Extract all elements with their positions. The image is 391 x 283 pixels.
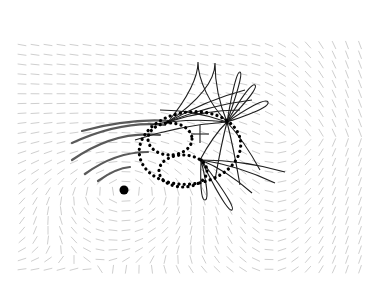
field-dash xyxy=(319,110,323,117)
field-dash xyxy=(319,100,323,107)
field-dash xyxy=(279,130,285,135)
field-dash xyxy=(359,236,362,244)
field-dash xyxy=(200,73,208,75)
field-dash xyxy=(332,129,335,136)
field-dash xyxy=(305,218,310,224)
field-dash xyxy=(319,61,323,68)
field-dash xyxy=(292,199,299,203)
field-dash xyxy=(332,80,335,87)
field-dash xyxy=(319,159,323,166)
field-dash xyxy=(346,168,349,176)
field-dash xyxy=(86,197,89,205)
field-dash xyxy=(44,64,52,65)
field-dash xyxy=(305,227,310,233)
field-dash xyxy=(319,217,323,224)
field-dash xyxy=(359,41,362,48)
field-dash xyxy=(32,170,39,174)
field-dash xyxy=(305,62,310,68)
field-dash xyxy=(109,54,117,55)
field-dash xyxy=(202,188,206,195)
field-dash xyxy=(122,74,130,75)
field-dash xyxy=(359,61,362,68)
field-dash xyxy=(57,151,65,154)
field-dash xyxy=(319,129,323,136)
field-dash xyxy=(213,44,221,45)
field-dash xyxy=(31,160,38,163)
field-dash xyxy=(346,256,349,264)
field-dash xyxy=(174,74,182,76)
field-dash xyxy=(278,268,286,271)
field-dash xyxy=(306,120,311,126)
vector-field-dashes xyxy=(18,41,361,273)
field-dash xyxy=(152,187,153,195)
field-dash xyxy=(31,132,39,134)
field-dash xyxy=(70,123,78,124)
field-dash xyxy=(83,132,91,133)
field-dash xyxy=(44,113,52,114)
field-dash xyxy=(187,44,195,45)
field-dash xyxy=(253,170,260,174)
field-dash xyxy=(292,72,298,77)
field-dash xyxy=(70,44,78,45)
field-dash xyxy=(161,103,169,104)
field-dash xyxy=(279,82,286,86)
field-dash xyxy=(44,54,52,55)
field-dash xyxy=(135,113,143,114)
field-dash xyxy=(359,149,362,157)
field-dash xyxy=(31,54,39,55)
field-dash xyxy=(265,63,272,66)
field-dash xyxy=(252,73,260,75)
field-dash xyxy=(96,239,104,241)
field-dash xyxy=(187,74,195,76)
field-dash xyxy=(292,238,298,243)
field-dash xyxy=(239,44,247,45)
field-dash xyxy=(189,266,193,273)
field-dash xyxy=(333,246,336,253)
field-dash xyxy=(240,188,246,194)
field-dash xyxy=(190,226,192,234)
field-dash xyxy=(31,151,39,154)
field-dash xyxy=(174,54,182,56)
field-dash xyxy=(96,152,104,153)
field-dash xyxy=(189,188,192,195)
field-dash xyxy=(122,249,130,251)
field-dash xyxy=(265,152,273,153)
field-dash xyxy=(253,208,259,213)
field-dash xyxy=(70,74,78,75)
field-dash xyxy=(319,256,323,263)
field-dash xyxy=(60,197,61,205)
field-dash xyxy=(162,227,168,233)
field-dash xyxy=(200,141,207,144)
field-dash xyxy=(333,178,336,185)
field-dash xyxy=(346,41,349,48)
field-dash xyxy=(252,122,259,125)
field-dash xyxy=(305,81,310,87)
field-dash xyxy=(31,258,38,261)
field-dash xyxy=(239,64,247,66)
field-dash xyxy=(292,170,299,174)
field-dash xyxy=(152,265,153,273)
field-dash xyxy=(359,90,362,98)
field-dash xyxy=(148,151,156,153)
field-dash xyxy=(84,208,89,214)
field-dash xyxy=(164,256,166,264)
field-dash xyxy=(57,44,65,45)
field-dash xyxy=(278,181,286,183)
field-dash xyxy=(190,256,192,264)
field-dash xyxy=(292,91,298,96)
field-dash xyxy=(86,187,88,195)
field-dash xyxy=(292,150,299,154)
field-dash xyxy=(265,220,273,222)
field-dash xyxy=(252,93,260,95)
field-dash xyxy=(359,110,362,118)
field-dash xyxy=(253,248,260,252)
field-dash xyxy=(228,237,232,244)
field-dash xyxy=(44,160,51,164)
field-dash xyxy=(305,42,310,48)
field-dash xyxy=(162,218,167,224)
field-dash xyxy=(47,207,48,215)
field-dash xyxy=(253,238,260,242)
field-dash xyxy=(33,207,36,214)
field-dash xyxy=(96,249,104,251)
field-dash xyxy=(333,188,336,195)
